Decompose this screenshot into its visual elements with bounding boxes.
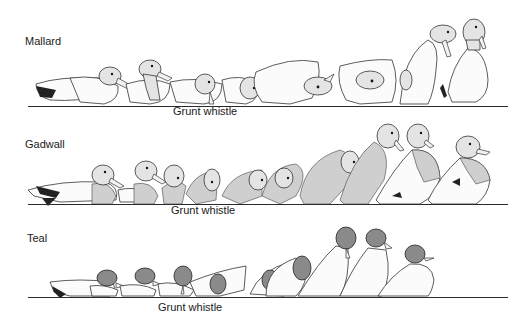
teal-water-line	[28, 297, 508, 298]
duck-stage-3	[120, 268, 160, 296]
duck-stage-5	[190, 266, 246, 296]
teal-grunt-whistle-sequence-illustration	[0, 0, 532, 305]
teal-caption: Grunt whistle	[158, 301, 222, 313]
duck-stage-4	[158, 266, 194, 296]
